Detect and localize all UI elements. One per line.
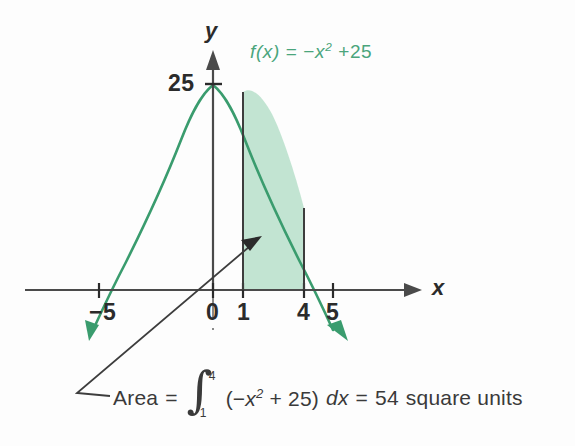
caption-area-word: Area xyxy=(113,386,158,410)
tick-label-y-25: 25 xyxy=(168,70,195,97)
tick-label-x-0: 0 xyxy=(206,299,219,326)
integrand-exponent: 2 xyxy=(256,386,263,401)
integral-symbol-group: ∫ 4 1 xyxy=(185,375,219,421)
caption-result-value: 54 xyxy=(375,386,399,410)
function-label-constant: +25 xyxy=(338,41,372,62)
function-label-exponent: 2 xyxy=(325,40,332,53)
integrand-close-paren: ) xyxy=(312,387,319,410)
shaded-area-region xyxy=(243,90,304,290)
function-label-equals: = xyxy=(286,41,298,62)
tick-label-x-1: 1 xyxy=(237,299,250,326)
integrand-base: x xyxy=(245,387,256,410)
tick-label-x-4: 4 xyxy=(297,299,310,326)
x-axis-label: x xyxy=(432,275,444,301)
integral-lower-limit: 1 xyxy=(200,406,207,420)
caption-result-units: square units xyxy=(406,386,523,410)
function-label: f(x) = −x2 +25 xyxy=(250,40,372,63)
integral-upper-limit: 4 xyxy=(209,369,216,383)
x-axis-arrowhead xyxy=(404,283,422,297)
tick-label-x-neg5: −5 xyxy=(89,299,116,326)
caption-equals-2: = xyxy=(356,386,368,410)
integral-area-figure: f(x) = −x2 +25 y x 25 −5 0 1 4 5 Area = … xyxy=(0,0,575,446)
caption-differential: dx xyxy=(326,386,349,410)
y-axis-label: y xyxy=(205,18,217,44)
area-caption: Area = ∫ 4 1 (−x2 + 25) dx = 54 square u… xyxy=(113,378,530,418)
integrand-minus: − xyxy=(233,387,245,410)
caption-integrand: (−x2 + 25) xyxy=(226,386,319,411)
function-label-fx: f(x) xyxy=(250,41,280,62)
y-axis-arrowhead xyxy=(206,50,220,70)
differential-x: x xyxy=(338,386,349,409)
integrand-open-paren: ( xyxy=(226,387,233,410)
caption-equals-1: = xyxy=(165,386,177,410)
tick-label-x-5: 5 xyxy=(326,299,339,326)
function-label-base: x xyxy=(315,41,325,62)
differential-d: d xyxy=(326,386,338,409)
integrand-plus-const: + 25 xyxy=(270,387,312,410)
function-label-minus: − xyxy=(303,41,315,62)
